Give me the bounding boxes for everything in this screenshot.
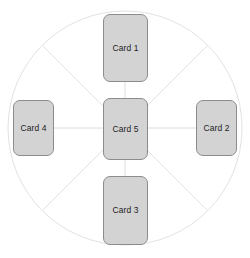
card-2[interactable]: Card 2: [196, 100, 237, 156]
card-5-label: Card 5: [112, 125, 138, 134]
card-5[interactable]: Card 5: [103, 98, 148, 160]
card-1[interactable]: Card 1: [103, 14, 148, 82]
card-3-label: Card 3: [112, 206, 138, 215]
card-4[interactable]: Card 4: [13, 100, 54, 156]
card-2-label: Card 2: [203, 124, 229, 133]
radial-diagram: Card 1 Card 2 Card 3 Card 4 Card 5: [0, 0, 250, 258]
card-4-label: Card 4: [20, 124, 46, 133]
card-3[interactable]: Card 3: [103, 176, 148, 245]
card-1-label: Card 1: [112, 44, 138, 53]
